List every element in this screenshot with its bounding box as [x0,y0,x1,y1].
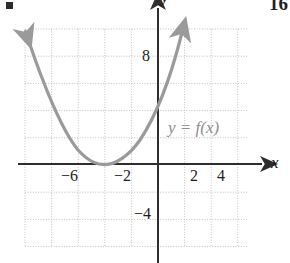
y-tick-label-minus4: −4 [134,205,151,223]
y-tick-label-8: 8 [142,47,150,65]
y-axis-label: y [161,0,169,7]
x-tick-label-4: 4 [217,167,225,185]
curve-equation-label: y = f(x) [168,118,219,138]
figure-container: 16 [0,0,290,263]
coordinate-plane [0,0,290,263]
x-tick-label-minus6: −6 [61,167,78,185]
x-tick-label-minus2: −2 [114,167,131,185]
x-tick-label-2: 2 [190,167,198,185]
x-axis-label: x [271,153,279,173]
